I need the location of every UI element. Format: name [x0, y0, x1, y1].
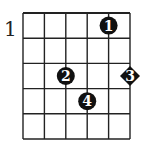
- svg-text:1: 1: [104, 18, 114, 34]
- chord-grid: 1234: [0, 0, 148, 152]
- svg-text:3: 3: [125, 68, 135, 84]
- finger-marker-2: 2: [57, 67, 75, 85]
- finger-marker-4: 4: [78, 92, 96, 110]
- finger-marker-3: 3: [120, 66, 140, 86]
- svg-text:2: 2: [61, 68, 71, 84]
- finger-marker-1: 1: [100, 17, 118, 35]
- svg-text:4: 4: [82, 93, 92, 109]
